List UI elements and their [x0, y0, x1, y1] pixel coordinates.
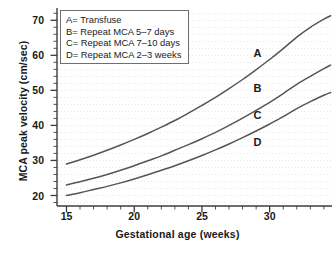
y-tick-label: 70 — [14, 15, 44, 25]
legend-item-b: B= Repeat MCA 5–7 days — [66, 26, 184, 38]
curve-label-b: B — [254, 83, 262, 94]
legend-item-d: D= Repeat MCA 2–3 weeks — [66, 49, 184, 61]
y-tick-label: 50 — [14, 85, 44, 95]
legend-item-a: A= Transfuse — [66, 14, 184, 26]
chart-figure: MCA peak velocity (cm/sec) 20 30 40 50 6… — [0, 0, 333, 253]
chart-legend: A= Transfuse B= Repeat MCA 5–7 days C= R… — [60, 10, 189, 64]
x-tick-label: 15 — [47, 210, 87, 222]
y-tick-label: 20 — [14, 191, 44, 201]
x-tick-label: 25 — [182, 210, 222, 222]
figure-caption — [4, 245, 329, 253]
curve-label-c: C — [254, 110, 262, 121]
x-axis-title-wrap: Gestational age (weeks) — [0, 228, 333, 240]
x-axis-title: Gestational age (weeks) — [93, 228, 239, 240]
y-tick-label: 40 — [14, 120, 44, 130]
curve-label-a: A — [254, 48, 262, 59]
y-tick-label: 60 — [14, 50, 44, 60]
curve-label-d: D — [254, 137, 262, 148]
y-tick-label: 30 — [14, 155, 44, 165]
x-tick-label: 20 — [114, 210, 154, 222]
x-tick-label: 30 — [250, 210, 290, 222]
y-axis-tick-labels: 20 30 40 50 60 70 — [10, 0, 44, 253]
legend-item-c: C= Repeat MCA 7–10 days — [66, 37, 184, 49]
